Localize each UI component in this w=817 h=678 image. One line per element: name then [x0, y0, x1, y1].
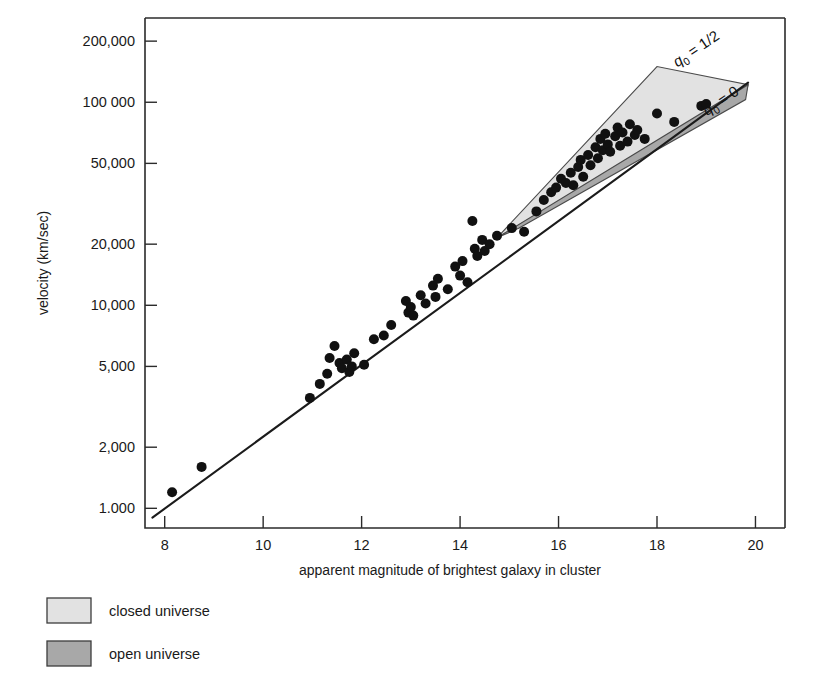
data-point — [458, 256, 468, 266]
data-point — [669, 117, 679, 127]
data-point — [463, 277, 473, 287]
data-point — [431, 292, 441, 302]
data-point — [421, 299, 431, 309]
legend-label: closed universe — [109, 603, 210, 619]
y-tick-label: 5,000 — [99, 358, 135, 374]
data-point — [492, 231, 502, 241]
data-point — [551, 183, 561, 193]
data-point — [315, 379, 325, 389]
x-tick-label: 16 — [550, 537, 566, 553]
data-point — [600, 129, 610, 139]
data-point — [359, 360, 369, 370]
data-point — [197, 462, 207, 472]
data-point — [386, 320, 396, 330]
legend-swatch — [47, 641, 91, 666]
data-point — [605, 147, 615, 157]
x-tick-label: 14 — [452, 537, 468, 553]
x-tick-label: 12 — [354, 537, 370, 553]
data-point — [406, 302, 416, 312]
legend-swatch — [47, 598, 91, 623]
legend-label: open universe — [109, 646, 200, 662]
fit-line-layer — [152, 83, 748, 518]
y-tick-label: 200,000 — [83, 33, 135, 49]
data-point — [347, 361, 357, 371]
data-point — [586, 160, 596, 170]
data-point — [652, 109, 662, 119]
data-point — [433, 274, 443, 284]
data-point — [369, 334, 379, 344]
data-point — [325, 353, 335, 363]
data-point — [330, 341, 340, 351]
data-point — [618, 128, 628, 138]
data-point — [531, 206, 541, 216]
hubble-diagram-figure: 1.0002,0005,00010,00020,00050,000100 000… — [0, 0, 817, 678]
data-point — [349, 348, 359, 358]
data-point — [408, 311, 418, 321]
data-point — [640, 134, 650, 144]
data-point — [568, 180, 578, 190]
x-tick-label: 18 — [649, 537, 665, 553]
y-tick-label: 10,000 — [91, 297, 135, 313]
x-tick-label: 8 — [161, 537, 169, 553]
x-tick-label: 20 — [747, 537, 763, 553]
chart-legend: closed universeopen universe — [47, 598, 210, 666]
data-point — [632, 125, 642, 135]
data-point — [583, 150, 593, 160]
data-point — [167, 487, 177, 497]
data-point — [507, 223, 517, 233]
data-point — [467, 216, 477, 226]
y-axis-title: velocity (km/sec) — [35, 211, 51, 315]
data-point — [539, 195, 549, 205]
hubble-fit-line — [152, 83, 748, 518]
y-tick-label: 1.000 — [99, 500, 135, 516]
data-point — [485, 239, 495, 249]
q-value: = 1/2 — [681, 27, 722, 62]
data-point — [322, 369, 332, 379]
y-tick-label: 20,000 — [91, 236, 135, 252]
data-point — [578, 172, 588, 182]
data-point — [519, 227, 529, 237]
y-tick-label: 2,000 — [99, 439, 135, 455]
chart-canvas: 1.0002,0005,00010,00020,00050,000100 000… — [0, 0, 817, 678]
q0-half-label: q0 = 1/2 — [669, 27, 723, 73]
data-point — [443, 284, 453, 294]
q0-half-label-text: q0 = 1/2 — [669, 27, 723, 73]
data-point — [379, 331, 389, 341]
y-tick-label: 50,000 — [91, 155, 135, 171]
x-tick-label: 10 — [255, 537, 271, 553]
y-tick-label: 100 000 — [83, 94, 135, 110]
data-point — [305, 393, 315, 403]
x-axis-title: apparent magnitude of brightest galaxy i… — [299, 562, 601, 578]
